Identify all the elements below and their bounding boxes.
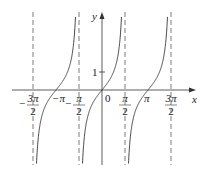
x-tick-numerator: π	[76, 92, 82, 104]
x-tick-denominator: 2	[122, 105, 128, 117]
x-tick-sign: −	[19, 97, 25, 109]
x-tick-label: −π	[52, 92, 65, 104]
x-tick-denominator: 2	[76, 105, 82, 117]
x-axis-label: x	[191, 93, 197, 105]
y-tick-label: 1	[92, 66, 98, 78]
tan-graph: 1 y x 0 −3π2−π−π2π2π3π2	[0, 0, 206, 170]
x-axis-arrow-icon	[189, 88, 196, 93]
x-tick-numerator: 3π	[26, 92, 39, 104]
y-axis-label: y	[91, 10, 97, 22]
x-tick-label: π	[144, 92, 150, 104]
x-tick-numerator: π	[122, 92, 128, 104]
x-tick-denominator: 2	[168, 105, 174, 117]
x-tick-denominator: 2	[30, 105, 36, 117]
y-axis-arrow-icon	[100, 12, 105, 19]
origin-label: 0	[105, 92, 111, 104]
x-tick-numerator: 3π	[164, 92, 177, 104]
x-tick-sign: −	[65, 97, 71, 109]
